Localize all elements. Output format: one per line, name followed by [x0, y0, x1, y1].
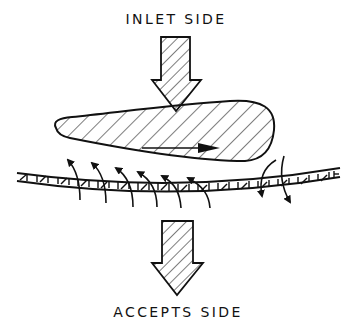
screen-plate: [17, 168, 340, 192]
accepts-flow-arrow-icon: [152, 221, 203, 295]
backflush-arrow-icon: [92, 163, 106, 203]
inlet-flow-arrow-icon: [152, 37, 201, 111]
forward-flow-arrows: [261, 156, 290, 202]
foil-blade: [55, 101, 274, 161]
pressure-screen-diagram: [0, 0, 356, 332]
